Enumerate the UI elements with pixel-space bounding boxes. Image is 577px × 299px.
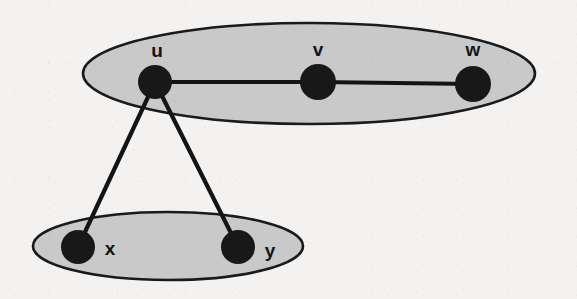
edge-v-w[interactable] [318, 82, 473, 84]
node-label-y: y [265, 240, 276, 261]
node-label-u: u [151, 40, 163, 61]
graph-diagram: u v w x y [0, 0, 577, 299]
node-x[interactable] [61, 230, 95, 264]
node-y[interactable] [221, 230, 255, 264]
node-label-x: x [105, 238, 116, 259]
node-u[interactable] [138, 65, 172, 99]
diagram-canvas: u v w x y [0, 0, 577, 299]
node-label-v: v [313, 39, 324, 60]
node-v[interactable] [300, 64, 336, 100]
node-w[interactable] [455, 66, 491, 102]
node-label-w: w [465, 39, 481, 60]
